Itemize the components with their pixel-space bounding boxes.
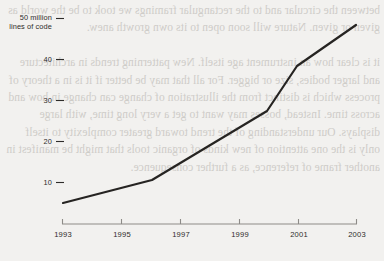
y-tick-label-10: 10 [0,178,52,187]
x-tick-label-2003: 2003 [348,230,366,239]
x-axis-ticks [63,219,357,224]
y-tick-label-50: 50 million lines of code [0,13,52,32]
y-tick-label-50-line1: 50 million [0,13,52,22]
x-tick-label-2001: 2001 [290,230,308,239]
chart-svg [0,0,384,261]
x-tick-label-1995: 1995 [113,230,131,239]
data-line [63,25,356,203]
y-axis-ticks [56,19,64,183]
x-tick-label-1993: 1993 [54,230,72,239]
line-chart: 50 million lines of code 40 30 20 10 199… [0,0,384,261]
x-tick-label-1999: 1999 [231,230,249,239]
x-tick-label-1997: 1997 [172,230,190,239]
y-axis-unit-label: lines of code [0,22,52,31]
chart-figure: between the circular and to the rectangu… [0,0,384,261]
y-tick-label-40: 40 [0,55,52,64]
y-tick-label-30: 30 [0,96,52,105]
y-tick-label-20: 20 [0,137,52,146]
